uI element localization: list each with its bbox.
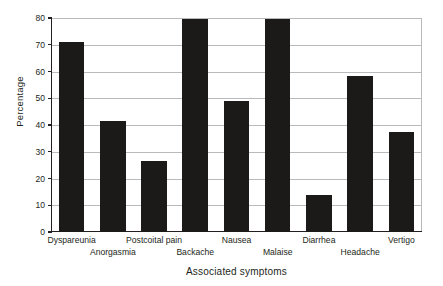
y-tick-label: 70	[36, 40, 45, 50]
x-tick-label: Anorgasmia	[90, 247, 136, 257]
y-tick-label: 60	[36, 67, 45, 77]
y-tick-label: 30	[36, 147, 45, 157]
bar	[59, 42, 85, 232]
x-axis-title: Associated symptoms	[51, 266, 422, 277]
bar	[224, 101, 250, 232]
bar-series	[51, 18, 422, 232]
y-tick-label: 20	[36, 174, 45, 184]
y-tick-label: 0	[40, 227, 45, 237]
x-tick-label: Headache	[341, 247, 380, 257]
x-tick-label: Dyspareunia	[47, 235, 95, 245]
x-tick-label: Backache	[176, 247, 214, 257]
x-tick-label: Nausea	[222, 235, 252, 245]
x-tick-label: Malaise	[263, 247, 293, 257]
y-tick-label: 80	[36, 13, 45, 23]
bar	[100, 121, 126, 232]
x-tick-label: Diarrhea	[302, 235, 335, 245]
x-tick-label: Vertigo	[388, 235, 415, 245]
x-axis-tick-labels: DyspareuniaAnorgasmiaPostcoital painBack…	[51, 233, 422, 263]
y-tick-label: 50	[36, 93, 45, 103]
bar-chart: Percentage 01020304050607080 Dyspareunia…	[0, 0, 443, 286]
bar	[265, 19, 291, 232]
bar	[306, 195, 332, 232]
y-axis-title: Percentage	[14, 57, 25, 147]
x-tick-label: Postcoital pain	[126, 235, 182, 245]
bar	[141, 161, 167, 232]
y-tick-label: 10	[36, 200, 45, 210]
y-tick-label: 40	[36, 120, 45, 130]
bar	[389, 132, 415, 232]
bar	[347, 76, 373, 232]
bar	[182, 19, 208, 232]
